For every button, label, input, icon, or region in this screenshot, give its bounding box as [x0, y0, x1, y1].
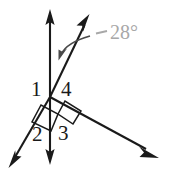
diagonal-down-arrowhead	[9, 150, 22, 168]
leader-dash	[96, 31, 107, 34]
lower-right-arrowhead	[139, 147, 159, 159]
angle-label-2: 2	[32, 124, 43, 145]
angle-label-1: 1	[31, 79, 42, 100]
angle-label-4: 4	[61, 79, 72, 100]
geometry-figure: 1 4 2 3 28°	[0, 0, 171, 169]
diagonal-up-arrowhead	[77, 14, 90, 32]
angle-label-3: 3	[58, 123, 69, 144]
measure-annotation-group	[59, 31, 108, 61]
angle-measure-label: 28°	[110, 22, 138, 42]
geometry-canvas	[0, 0, 171, 169]
